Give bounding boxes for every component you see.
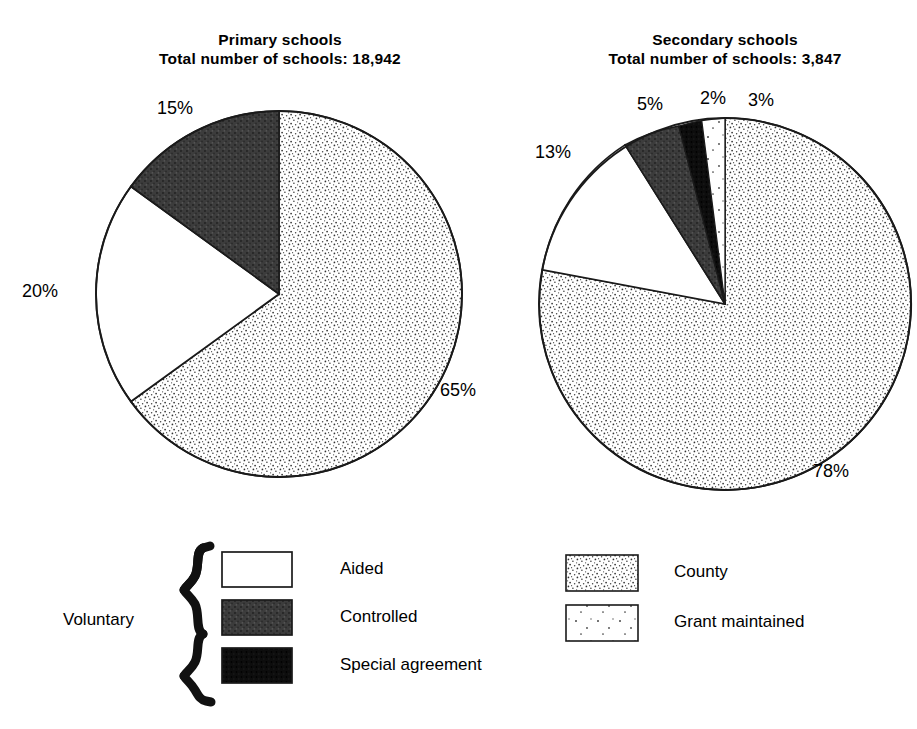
legend-item-label-aided: Aided xyxy=(340,559,383,579)
legend-item-label-special-agreement: Special agreement xyxy=(340,655,482,675)
figure-canvas: Primary schools Total number of schools:… xyxy=(0,0,917,729)
legend-swatch-grant-maintained[interactable] xyxy=(566,605,638,641)
legend-swatch-county[interactable] xyxy=(566,555,638,591)
primary-pie xyxy=(96,111,462,477)
legend-group-label-voluntary: Voluntary xyxy=(63,610,134,630)
voluntary-brace xyxy=(184,546,211,702)
secondary-pie xyxy=(539,118,911,490)
primary-label-aided: 20% xyxy=(22,281,58,301)
secondary-label-controlled: 5% xyxy=(637,94,663,114)
primary-label-county: 65% xyxy=(440,380,476,400)
legend-item-label-grant-maintained: Grant maintained xyxy=(674,612,804,632)
legend-item-label-controlled: Controlled xyxy=(340,607,418,627)
primary-label-controlled: 15% xyxy=(157,98,193,118)
legend-item-label-county: County xyxy=(674,562,728,582)
legend-swatch-controlled[interactable] xyxy=(222,600,292,635)
secondary-label-county: 78% xyxy=(813,461,849,481)
secondary-label-aided: 13% xyxy=(535,142,571,162)
secondary-label-special-agreement: 2% xyxy=(700,88,726,108)
secondary-label-grant-maintained: 3% xyxy=(748,90,774,110)
legend-swatch-aided[interactable] xyxy=(222,552,292,587)
legend-swatch-special-agreement[interactable] xyxy=(222,648,292,683)
